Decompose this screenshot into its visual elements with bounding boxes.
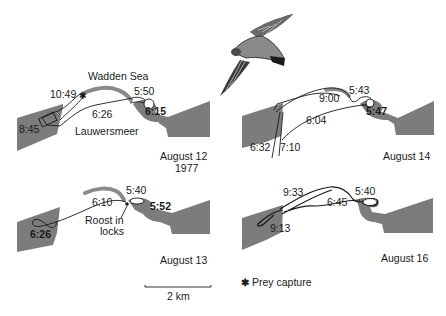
legend: 2 km ✱ Prey capture xyxy=(145,276,312,302)
dike xyxy=(82,88,131,100)
date-label: August 12 xyxy=(160,150,207,162)
time-label: 5:47 xyxy=(366,105,387,117)
time-label: 9:00 xyxy=(319,92,340,104)
lock-loop xyxy=(363,199,377,206)
panel-aug13: 5:40 6:10 5:52 6:26 Roost in locks Augus… xyxy=(17,184,210,266)
lock-loop xyxy=(130,198,144,204)
time-label: 5:40 xyxy=(355,185,376,197)
date-label: August 14 xyxy=(383,150,430,162)
time-label: 5:40 xyxy=(126,184,147,196)
scale-bar xyxy=(145,285,211,287)
panel-aug16: 9:33 5:40 6:45 9:13 August 16 xyxy=(242,185,433,264)
time-label: 5:50 xyxy=(134,85,155,97)
time-label: 10:49 xyxy=(50,88,76,100)
time-label: 5:43 xyxy=(349,84,370,96)
time-label: 8:45 xyxy=(19,123,40,135)
prey-symbol-icon: ✱ xyxy=(241,277,250,288)
falcon-illustration xyxy=(220,14,293,96)
prey-legend-label: Prey capture xyxy=(252,276,312,288)
panel-aug12: ✱ Wadden Sea Lauwersmeer 10:49 5:50 6:26… xyxy=(17,70,210,174)
time-label: 9:33 xyxy=(283,186,304,198)
roost-label: locks xyxy=(100,225,124,237)
scale-label: 2 km xyxy=(167,290,190,302)
time-label: 6:32 xyxy=(250,141,271,153)
time-label: 6:45 xyxy=(327,196,348,208)
date-label: August 16 xyxy=(381,252,428,264)
date-label: August 13 xyxy=(160,254,207,266)
time-label: 7:10 xyxy=(280,141,301,153)
time-label: 5:52 xyxy=(150,200,171,212)
sea-label: Wadden Sea xyxy=(88,70,148,82)
lake-label: Lauwersmeer xyxy=(75,125,139,137)
prey-capture-marker: ✱ xyxy=(79,91,87,101)
time-label: 9:13 xyxy=(270,222,291,234)
time-label: 6:15 xyxy=(145,105,166,117)
time-label: 6:26 xyxy=(92,108,113,120)
flight-track-figure: ✱ Wadden Sea Lauwersmeer 10:49 5:50 6:26… xyxy=(0,0,446,316)
year-label: 1977 xyxy=(175,162,199,174)
roost-point xyxy=(125,202,129,206)
time-label: 6:26 xyxy=(30,228,51,240)
panel-aug14: 5:43 9:00 5:47 6:04 6:32 7:10 August 14 xyxy=(242,84,434,162)
time-label: 6:10 xyxy=(92,196,113,208)
time-label: 6:04 xyxy=(306,114,327,126)
